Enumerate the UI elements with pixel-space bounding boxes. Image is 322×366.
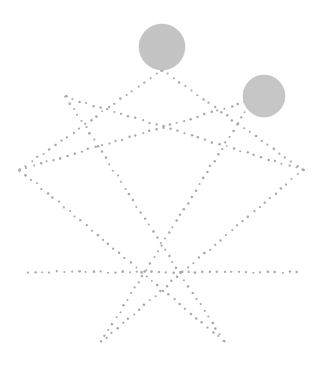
dot-marker xyxy=(71,98,73,100)
dot-marker xyxy=(191,196,193,198)
dot-marker xyxy=(117,174,119,176)
dot-marker xyxy=(85,271,87,273)
dot-marker xyxy=(195,189,198,192)
dot-marker xyxy=(207,316,209,318)
dot-marker xyxy=(102,239,104,241)
dot-marker xyxy=(157,250,159,252)
dot-marker xyxy=(302,169,305,172)
dot-marker xyxy=(108,163,110,165)
dot-marker xyxy=(196,94,198,96)
dot-marker xyxy=(111,323,113,325)
dot-marker xyxy=(200,303,202,305)
dot-marker xyxy=(232,130,235,133)
dot-marker xyxy=(212,322,215,325)
dot-marker xyxy=(134,134,136,136)
dot-marker xyxy=(36,182,38,184)
dot-marker xyxy=(31,160,33,162)
dot-marker xyxy=(144,217,146,219)
dot-marker xyxy=(156,236,158,238)
dot-marker xyxy=(95,145,97,147)
dot-marker xyxy=(290,160,292,162)
dot-marker xyxy=(189,118,192,121)
dot-marker xyxy=(219,239,221,241)
dot-marker xyxy=(238,271,240,273)
dot-marker xyxy=(209,165,211,167)
dot-marker xyxy=(187,271,189,273)
dot-marker xyxy=(223,340,225,342)
dot-marker xyxy=(143,270,146,273)
dot-marker xyxy=(224,141,226,143)
dot-marker xyxy=(192,292,194,294)
dot-marker xyxy=(48,148,51,151)
dot-marker xyxy=(266,144,268,146)
dot-marker xyxy=(175,219,177,221)
dot-marker xyxy=(73,108,75,110)
dot-marker xyxy=(203,113,206,116)
dot-marker xyxy=(132,199,134,201)
dot-marker xyxy=(202,98,204,100)
dot-marker xyxy=(148,122,150,124)
dot-marker xyxy=(173,77,175,79)
dot-marker xyxy=(136,266,138,268)
dot-marker xyxy=(131,90,133,92)
dot-marker xyxy=(226,145,228,147)
dot-marker xyxy=(48,271,50,273)
dot-marker xyxy=(121,270,124,273)
dot-marker xyxy=(74,153,76,155)
dot-marker xyxy=(141,275,143,277)
dot-marker xyxy=(155,128,158,131)
dot-marker xyxy=(289,164,291,166)
dot-marker xyxy=(278,153,280,155)
dot-marker xyxy=(110,332,112,334)
dot-marker xyxy=(217,153,220,156)
dot-marker xyxy=(34,271,36,273)
dot-marker xyxy=(99,270,101,272)
dot-marker xyxy=(192,262,194,264)
dot-marker xyxy=(224,271,226,273)
dot-marker xyxy=(174,298,176,300)
dot-marker xyxy=(90,119,92,121)
dot-marker xyxy=(206,171,208,173)
dot-marker xyxy=(201,270,203,272)
dot-marker xyxy=(195,298,197,300)
dot-marker xyxy=(187,202,190,205)
dot-marker xyxy=(134,117,136,119)
dot-marker xyxy=(127,318,129,320)
dot-marker xyxy=(120,113,122,115)
dot-marker xyxy=(216,109,218,111)
right-disc xyxy=(243,75,285,117)
dot-marker xyxy=(241,220,243,222)
dot-marker xyxy=(59,157,62,160)
dot-marker xyxy=(247,215,250,218)
segment-baseline xyxy=(27,270,298,274)
dot-marker xyxy=(216,271,218,273)
dot-marker xyxy=(120,181,122,183)
dot-marker xyxy=(191,134,193,136)
dot-marker xyxy=(176,275,179,278)
dot-marker xyxy=(252,272,254,274)
dot-marker xyxy=(135,206,137,208)
dot-marker xyxy=(97,234,100,237)
dot-marker xyxy=(60,139,62,141)
dot-marker xyxy=(118,252,120,254)
dot-marker xyxy=(171,226,173,228)
dot-marker xyxy=(179,213,181,215)
dot-marker xyxy=(200,321,202,323)
dot-marker xyxy=(280,163,282,165)
dot-marker xyxy=(156,72,158,74)
dot-marker xyxy=(93,139,95,141)
dot-marker xyxy=(27,271,29,273)
dot-marker xyxy=(47,192,50,195)
dot-marker xyxy=(116,327,119,330)
dot-marker xyxy=(149,262,151,264)
dot-marker xyxy=(187,266,189,268)
dot-marker xyxy=(148,224,150,226)
dot-marker xyxy=(219,333,221,335)
dot-marker xyxy=(209,249,211,251)
dot-marker xyxy=(158,271,160,273)
dot-marker xyxy=(249,131,251,133)
dot-marker xyxy=(24,174,27,177)
dot-marker xyxy=(85,102,87,104)
dot-marker xyxy=(25,167,27,169)
dot-marker xyxy=(231,105,234,108)
